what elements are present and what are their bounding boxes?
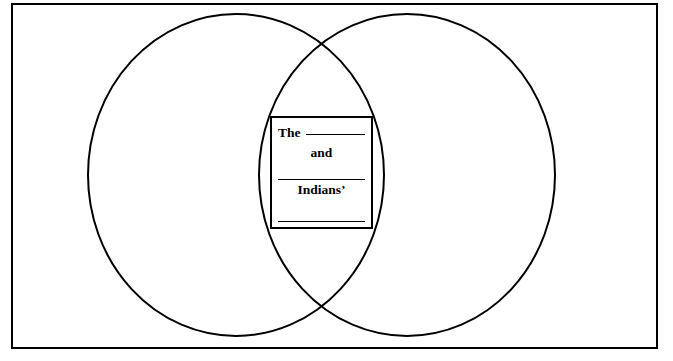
answer-line-3-blank[interactable] (278, 167, 365, 180)
answer-line-5 (278, 206, 365, 223)
answer-line-2: and (278, 146, 365, 163)
answer-line-4: Indians’ (278, 183, 365, 200)
answer-line-4-word: Indians’ (278, 183, 365, 197)
answer-line-1: The (278, 124, 365, 141)
answer-line-2-word: and (278, 146, 365, 160)
overlap-answer-box: The and Indians’ (270, 116, 373, 229)
answer-line-5-blank[interactable] (278, 209, 365, 222)
answer-line-1-blank[interactable] (306, 122, 365, 135)
answer-line-1-word: The (278, 126, 301, 140)
answer-line-3 (278, 165, 365, 182)
venn-diagram-worksheet: ....... The and Indians’ (0, 0, 673, 361)
